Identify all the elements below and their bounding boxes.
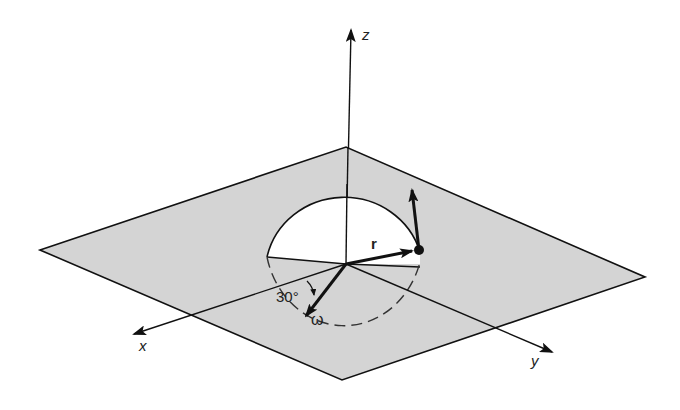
rotation-diagram: z x y r ω 30° (0, 0, 680, 410)
y-axis-label: y (530, 352, 540, 369)
z-axis-label: z (361, 26, 370, 43)
x-axis-label: x (138, 337, 147, 354)
angle-label: 30° (276, 288, 299, 305)
z-axis-inner (346, 184, 347, 264)
omega-label: ω (311, 311, 324, 328)
r-vector-label: r (371, 235, 377, 252)
